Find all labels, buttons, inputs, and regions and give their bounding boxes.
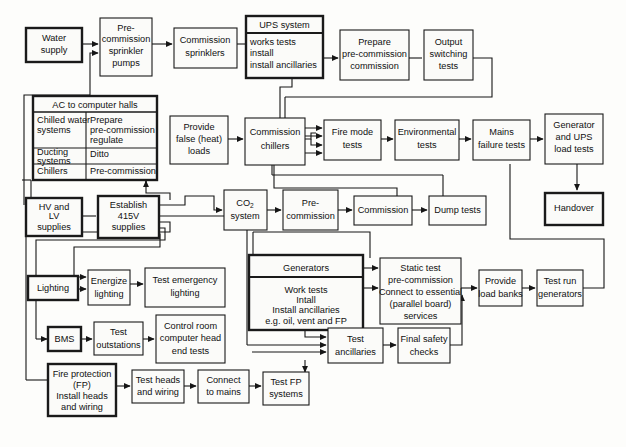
- svg-text:Ditto: Ditto: [90, 149, 109, 159]
- svg-text:Commission: Commission: [180, 35, 231, 45]
- node-handover[interactable]: Handover: [545, 193, 603, 225]
- svg-text:Handover: Handover: [554, 203, 594, 213]
- node-establish-415v-supplies[interactable]: Establish 415V supplies: [98, 196, 159, 238]
- node-fire-protection[interactable]: Fire protection (FP) Install heads and w…: [48, 364, 116, 416]
- svg-text:Control room: Control room: [164, 321, 217, 331]
- node-lighting[interactable]: Lighting: [28, 276, 78, 300]
- svg-text:and wiring: and wiring: [61, 402, 103, 412]
- svg-text:Provide: Provide: [183, 122, 214, 132]
- svg-text:commission: commission: [350, 61, 399, 71]
- svg-text:LV: LV: [49, 211, 60, 221]
- svg-text:failure tests: failure tests: [478, 140, 525, 150]
- svg-text:Chillers: Chillers: [37, 166, 68, 176]
- svg-text:Test run: Test run: [544, 276, 577, 286]
- node-connect-to-mains[interactable]: Connect to mains: [198, 370, 249, 403]
- node-test-emergency-lighting[interactable]: Test emergency lighting: [145, 268, 225, 307]
- node-hv-lv-supplies[interactable]: HV and LV supplies: [26, 198, 82, 236]
- svg-text:Test FP: Test FP: [270, 377, 301, 387]
- node-commission[interactable]: Commission: [354, 196, 412, 225]
- svg-text:Intall: Intall: [296, 295, 315, 305]
- node-fire-mode-tests[interactable]: Fire mode tests: [324, 120, 381, 160]
- node-static-test[interactable]: Static test pre-commission Connect to es…: [379, 258, 462, 324]
- node-generators[interactable]: Generators Work tests Intall Install anc…: [249, 255, 363, 330]
- svg-text:and wiring: and wiring: [137, 387, 179, 397]
- node-prepare-precommission[interactable]: Prepare pre-commission commission: [340, 30, 409, 80]
- svg-text:(parallel board): (parallel board): [390, 299, 452, 309]
- node-test-fp-systems[interactable]: Test FP systems: [263, 372, 309, 405]
- node-test-heads-and-wiring[interactable]: Test heads and wiring: [132, 370, 184, 403]
- svg-text:Install heads: Install heads: [56, 391, 108, 401]
- svg-text:Output: Output: [435, 37, 463, 47]
- svg-text:Test heads: Test heads: [136, 375, 181, 385]
- svg-text:install: install: [250, 48, 274, 58]
- node-commission-chillers[interactable]: Commission chillers: [245, 118, 305, 165]
- svg-text:tests: tests: [343, 140, 363, 150]
- svg-text:checks: checks: [410, 347, 439, 357]
- svg-text:lighting: lighting: [170, 288, 199, 298]
- svg-text:systems: systems: [37, 125, 71, 135]
- svg-text:commission: commission: [102, 34, 151, 44]
- svg-text:load banks: load banks: [478, 289, 523, 299]
- svg-text:Energize: Energize: [91, 276, 127, 286]
- node-final-safety-checks[interactable]: Final safety checks: [398, 328, 450, 363]
- svg-text:Mains: Mains: [489, 127, 514, 137]
- node-ac-to-computer-halls[interactable]: AC to computer halls Chilled water syste…: [33, 96, 157, 180]
- svg-text:Pre-commission: Pre-commission: [90, 166, 156, 176]
- svg-text:Pre-: Pre-: [302, 198, 319, 208]
- svg-text:commission: commission: [286, 211, 335, 221]
- flowchart-canvas: Water supply Pre- commission sprinkler p…: [0, 0, 626, 447]
- svg-text:Prepare: Prepare: [358, 37, 391, 47]
- node-test-run-generators[interactable]: Test run generators: [537, 270, 583, 306]
- svg-text:chillers: chillers: [261, 141, 290, 151]
- svg-text:Fire protection: Fire protection: [53, 369, 112, 379]
- svg-text:to mains: to mains: [206, 387, 241, 397]
- svg-text:BMS: BMS: [55, 334, 75, 344]
- svg-text:load tests: load tests: [554, 144, 594, 154]
- svg-text:Final safety: Final safety: [401, 334, 448, 344]
- svg-text:Establish: Establish: [110, 200, 147, 210]
- svg-text:supplies: supplies: [112, 222, 146, 232]
- node-ups-system[interactable]: UPS system works tests install install a…: [246, 16, 323, 78]
- node-provide-load-banks[interactable]: Provide load banks: [478, 270, 523, 306]
- conn-chillers-to-firemode: [311, 139, 322, 145]
- svg-text:Install ancillaries: Install ancillaries: [272, 305, 340, 315]
- generators-header: Generators: [283, 263, 329, 273]
- svg-text:computer head: computer head: [160, 333, 221, 343]
- node-bms[interactable]: BMS: [48, 327, 81, 351]
- water-supply-label-1: Water: [42, 33, 66, 43]
- node-environmental-tests[interactable]: Environmental tests: [395, 120, 459, 160]
- svg-text:Generator: Generator: [553, 120, 594, 130]
- node-energize-lighting[interactable]: Energize lighting: [88, 270, 130, 305]
- svg-text:pre-commission: pre-commission: [388, 275, 453, 285]
- svg-text:Fire mode: Fire mode: [332, 127, 373, 137]
- svg-text:install ancillaries: install ancillaries: [250, 60, 317, 70]
- node-generator-ups-load-tests[interactable]: Generator and UPS load tests: [545, 114, 603, 164]
- node-dump-tests[interactable]: Dump tests: [429, 196, 486, 225]
- node-precommission-sprinkler-pumps[interactable]: Pre- commission sprinkler pumps: [100, 18, 152, 76]
- node-test-outstations[interactable]: Test outstations: [94, 322, 143, 355]
- water-supply-label-2: supply: [41, 45, 68, 55]
- ac-halls-header: AC to computer halls: [52, 100, 138, 110]
- node-test-ancillaries[interactable]: Test ancillaries: [328, 328, 383, 363]
- svg-text:e.g. oil, vent and FP: e.g. oil, vent and FP: [265, 316, 347, 326]
- node-commission-sprinklers[interactable]: Commission sprinklers: [174, 28, 237, 68]
- svg-text:Connect to essential: Connect to essential: [379, 287, 462, 297]
- svg-text:end tests: end tests: [172, 346, 210, 356]
- svg-text:ancillaries: ancillaries: [335, 347, 376, 357]
- svg-text:pre-commission: pre-commission: [90, 125, 155, 135]
- svg-text:loads: loads: [188, 146, 210, 156]
- svg-text:tests: tests: [439, 61, 459, 71]
- node-output-switching-tests[interactable]: Output switching tests: [424, 30, 473, 80]
- node-provide-false-heat-loads[interactable]: Provide false (heat) loads: [170, 116, 228, 164]
- node-mains-failure-tests[interactable]: Mains failure tests: [473, 120, 530, 160]
- svg-text:Connect: Connect: [206, 375, 241, 385]
- node-control-room-head-end-tests[interactable]: Control room computer head end tests: [156, 315, 225, 363]
- node-water-supply[interactable]: Water supply: [26, 28, 82, 62]
- svg-text:Static test: Static test: [400, 263, 441, 273]
- node-precommission[interactable]: Pre- commission: [283, 190, 338, 230]
- svg-text:supplies: supplies: [37, 222, 71, 232]
- svg-text:Dump tests: Dump tests: [434, 205, 481, 215]
- svg-text:415V: 415V: [118, 211, 140, 221]
- svg-text:systems: systems: [269, 389, 303, 399]
- node-co2-system[interactable]: CO2 system: [224, 190, 267, 230]
